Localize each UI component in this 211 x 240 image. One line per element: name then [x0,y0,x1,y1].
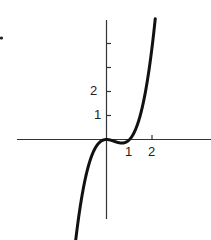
x-tick-label-1: 1 [125,145,132,158]
y-tick-label-2: 2 [90,84,97,97]
stray-dot [0,36,3,39]
y-tick-label-1: 1 [94,108,101,121]
y-ticks [107,44,112,116]
cubic-function-plot [0,0,211,240]
cubic-curve [76,19,156,240]
x-tick-label-2: 2 [148,145,155,158]
